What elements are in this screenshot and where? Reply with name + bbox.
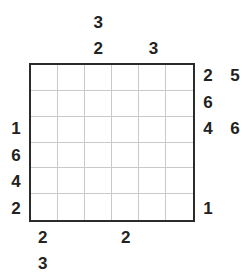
clue-top-inner-col5: 3 <box>140 38 168 59</box>
grid-cell-r4c4[interactable] <box>112 143 139 169</box>
grid-cell-r5c4[interactable] <box>112 168 139 194</box>
grid-cell-r6c5[interactable] <box>139 194 166 220</box>
puzzle-container: 3 2 3 1 6 4 2 <box>0 0 249 279</box>
grid-cell-r5c1[interactable] <box>31 168 58 194</box>
clue-left-row6: 2 <box>6 196 26 223</box>
grid-cell-r5c2[interactable] <box>58 168 85 194</box>
clue-left-row2 <box>6 90 26 117</box>
clue-right-inner-row2: 6 <box>198 90 218 117</box>
grid-cell-r5c3[interactable] <box>85 168 112 194</box>
grid-cell-r3c1[interactable] <box>31 117 58 143</box>
clue-right-outer-row6 <box>225 196 245 223</box>
clue-left-row1 <box>6 63 26 90</box>
grid-cell-r1c6[interactable] <box>166 65 193 91</box>
grid-cell-r3c3[interactable] <box>85 117 112 143</box>
clue-top-inner-col3: 2 <box>84 38 112 59</box>
grid-cell-r2c2[interactable] <box>58 91 85 117</box>
grid-cell-r1c4[interactable] <box>112 65 139 91</box>
grid-cell-r2c6[interactable] <box>166 91 193 117</box>
grid-cell-r3c4[interactable] <box>112 117 139 143</box>
clue-right-outer-row4 <box>225 143 245 170</box>
grid-cell-r4c1[interactable] <box>31 143 58 169</box>
grid-cell-r6c3[interactable] <box>85 194 112 220</box>
clue-bottom-inner-col4: 2 <box>112 227 140 248</box>
clue-right-outer-row1: 5 <box>225 63 245 90</box>
grid-cell-r6c4[interactable] <box>112 194 139 220</box>
grid-cell-r5c5[interactable] <box>139 168 166 194</box>
grid-cell-r1c5[interactable] <box>139 65 166 91</box>
clue-right-inner-row5 <box>198 169 218 196</box>
clue-bottom-outer-col1: 3 <box>29 253 57 274</box>
clue-right-outer-row3: 6 <box>225 116 245 143</box>
clue-right-outer-row5 <box>225 169 245 196</box>
grid-cell-r1c3[interactable] <box>85 65 112 91</box>
grid-cell-r4c3[interactable] <box>85 143 112 169</box>
grid-cell-r3c5[interactable] <box>139 117 166 143</box>
grid-cell-r1c2[interactable] <box>58 65 85 91</box>
puzzle-grid[interactable] <box>29 63 195 222</box>
clue-left-row5: 4 <box>6 169 26 196</box>
grid-cell-r2c5[interactable] <box>139 91 166 117</box>
grid-cell-r6c2[interactable] <box>58 194 85 220</box>
clue-left-row3: 1 <box>6 116 26 143</box>
grid-cell-r4c6[interactable] <box>166 143 193 169</box>
grid-cell-r1c1[interactable] <box>31 65 58 91</box>
grid-cell-r6c6[interactable] <box>166 194 193 220</box>
clue-right-inner-row1: 2 <box>198 63 218 90</box>
grid-cell-r3c6[interactable] <box>166 117 193 143</box>
clue-right-outer-row2 <box>225 90 245 117</box>
grid-cell-r6c1[interactable] <box>31 194 58 220</box>
clue-top-outer-col3: 3 <box>84 12 112 33</box>
clue-left-row4: 6 <box>6 143 26 170</box>
grid-cell-r2c1[interactable] <box>31 91 58 117</box>
grid-cell-r2c4[interactable] <box>112 91 139 117</box>
clue-bottom-inner-col1: 2 <box>29 227 57 248</box>
clue-right-inner-row3: 4 <box>198 116 218 143</box>
clue-right-inner-row6: 1 <box>198 196 218 223</box>
grid-cell-r2c3[interactable] <box>85 91 112 117</box>
grid-cell-r5c6[interactable] <box>166 168 193 194</box>
grid-cell-r3c2[interactable] <box>58 117 85 143</box>
grid-cell-r4c5[interactable] <box>139 143 166 169</box>
clue-right-inner-row4 <box>198 143 218 170</box>
grid-cell-r4c2[interactable] <box>58 143 85 169</box>
